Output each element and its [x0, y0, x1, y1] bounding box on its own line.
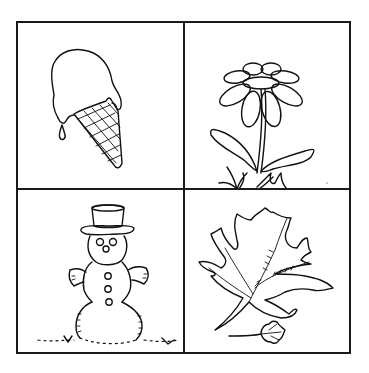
picture-grid: melting ice cream cone — [16, 21, 351, 354]
panel-flower: daisy flower with leaves and grass — [185, 23, 350, 188]
ice-cream-icon — [18, 23, 183, 188]
panel-leaves: oak leaf and small maple leaf — [185, 190, 350, 354]
leaf-icon — [185, 190, 350, 354]
panel-snowman: snowman with top hat — [18, 190, 183, 354]
snowman-icon — [18, 190, 183, 354]
panel-ice-cream: melting ice cream cone — [18, 23, 183, 188]
flower-icon — [185, 23, 350, 188]
